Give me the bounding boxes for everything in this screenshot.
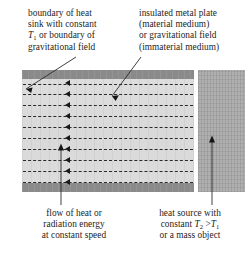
- symbol-T2: T: [194, 219, 199, 229]
- symbol-T1-subscript: 1: [216, 223, 219, 230]
- figure-canvas: boundary of heat sink with constant T1 o…: [0, 0, 245, 256]
- metal-plate-line-4: (immaterial medium): [139, 42, 219, 53]
- flow-direction-arrow: [65, 91, 70, 97]
- metal-plate-line-2: (material medium): [139, 19, 219, 30]
- flow-direction-arrow: [65, 80, 70, 86]
- flow-line: [23, 138, 193, 139]
- flow-line: [23, 149, 193, 150]
- heat-source-line-2: constant T2 >T1: [140, 219, 240, 230]
- bottom-boundary-band: [22, 183, 194, 192]
- flow-line: [23, 127, 193, 128]
- flow-direction-arrow: [65, 146, 70, 152]
- flow-direction-arrow: [65, 179, 70, 185]
- label-boundary-of-heat-sink: boundary of heat sink with constant T1 o…: [28, 8, 97, 53]
- energy-flow-line-2: radiation energy: [22, 219, 126, 230]
- symbol-T-subscript: 1: [33, 34, 36, 41]
- metal-plate-line-1: insulated metal plate: [139, 8, 219, 19]
- heat-source-line-3: or a mass object: [140, 230, 240, 241]
- greater-than-sign: >: [203, 219, 211, 229]
- heat-sink-line-2: sink with constant: [28, 19, 97, 30]
- flow-line: [23, 116, 193, 117]
- flow-line: [23, 94, 193, 95]
- flow-line: [23, 182, 193, 183]
- energy-flow-line-3: at constant speed: [22, 230, 126, 241]
- label-flow-of-heat-or-radiation-energy: flow of heat or radiation energy at cons…: [22, 208, 126, 242]
- flow-line: [23, 171, 193, 172]
- flow-line: [23, 84, 193, 85]
- energy-flow-line-1: flow of heat or: [22, 208, 126, 219]
- medium-region: [22, 70, 194, 192]
- flow-line: [23, 160, 193, 161]
- top-boundary-band: [22, 70, 194, 79]
- flow-direction-arrow: [65, 124, 70, 130]
- flow-direction-arrow: [65, 157, 70, 163]
- flow-direction-arrow: [65, 113, 70, 119]
- flow-line: [23, 105, 193, 106]
- heat-source-constant-word: constant: [161, 219, 195, 229]
- heat-source-line-1: heat source with: [140, 208, 240, 219]
- flow-direction-arrow: [65, 135, 70, 141]
- metal-plate-line-3: or gravitational field: [139, 30, 219, 41]
- symbol-T2-subscript: 2: [200, 223, 203, 230]
- heat-sink-line-1: boundary of heat: [28, 8, 97, 19]
- heat-source-block: [198, 70, 245, 192]
- label-heat-source: heat source with constant T2 >T1 or a ma…: [140, 208, 240, 242]
- heat-sink-line-3: T1 or boundary of: [28, 30, 97, 41]
- schematic-diagram: [22, 70, 223, 192]
- heat-sink-line-4: gravitational field: [28, 42, 97, 53]
- label-insulated-metal-plate: insulated metal plate (material medium) …: [139, 8, 219, 53]
- flow-direction-arrow: [65, 102, 70, 108]
- heat-sink-line-3-tail: or boundary of: [37, 30, 95, 40]
- flow-direction-arrow: [65, 168, 70, 174]
